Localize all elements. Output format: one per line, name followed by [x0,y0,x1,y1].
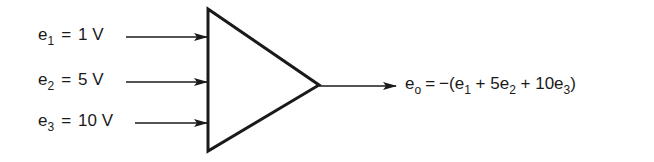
output-expression-part: −(e [439,74,464,93]
equals-sign: = [61,70,71,89]
output-subscript: o [414,83,421,97]
output-term-subscript: 2 [509,83,516,97]
output-expression-part: + 10e [516,74,564,93]
equals-sign: = [61,111,71,130]
output-label: eo=−(e1 + 5e2 + 10e3) [405,74,576,94]
input-subscript: 2 [47,79,54,93]
input-label-1: e1=1 V [38,25,104,45]
equals-sign: = [425,74,435,93]
input-value: 10 V [78,111,113,130]
equals-sign: = [61,25,71,44]
output-expression-part: ) [570,74,576,93]
output-expression-part: + 5e [471,74,509,93]
input-subscript: 3 [47,120,54,134]
output-term-subscript: 1 [464,83,471,97]
input-subscript: 1 [47,34,54,48]
input-value: 1 V [78,25,104,44]
input-label-2: e2=5 V [38,70,104,90]
amplifier-triangle-icon [208,9,319,151]
input-label-3: e3=10 V [38,111,113,131]
input-value: 5 V [78,70,104,89]
